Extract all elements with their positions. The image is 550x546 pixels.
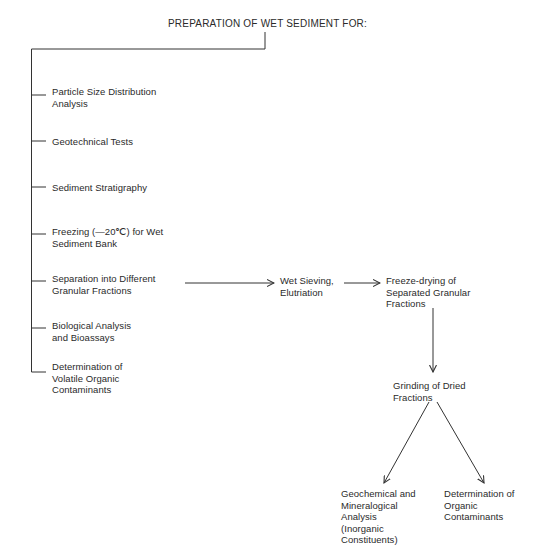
- node-geochemical: Geochemical and Mineralogical Analysis (…: [341, 488, 416, 546]
- branch-particle-size: Particle Size Distribution Analysis: [52, 86, 156, 109]
- branch-volatile-organic: Determination of Volatile Organic Contam…: [52, 361, 123, 396]
- branch-separation: Separation into Different Granular Fract…: [52, 273, 156, 296]
- arrow-to-organic: [437, 402, 484, 483]
- node-grinding: Grinding of Dried Fractions: [393, 380, 466, 403]
- node-wet-sieving: Wet Sieving, Elutriation: [280, 275, 334, 298]
- branch-biological: Biological Analysis and Bioassays: [52, 320, 131, 343]
- node-freeze-drying: Freeze-drying of Separated Granular Frac…: [386, 275, 470, 310]
- branch-geotechnical: Geotechnical Tests: [52, 136, 133, 148]
- node-organic-contaminants: Determination of Organic Contaminants: [444, 488, 515, 523]
- branch-freezing: Freezing (—20℃) for Wet Sediment Bank: [52, 226, 163, 249]
- arrow-to-geochemical: [384, 402, 429, 483]
- branch-stratigraphy: Sediment Stratigraphy: [52, 182, 147, 194]
- diagram-title: PREPARATION OF WET SEDIMENT FOR:: [168, 18, 367, 30]
